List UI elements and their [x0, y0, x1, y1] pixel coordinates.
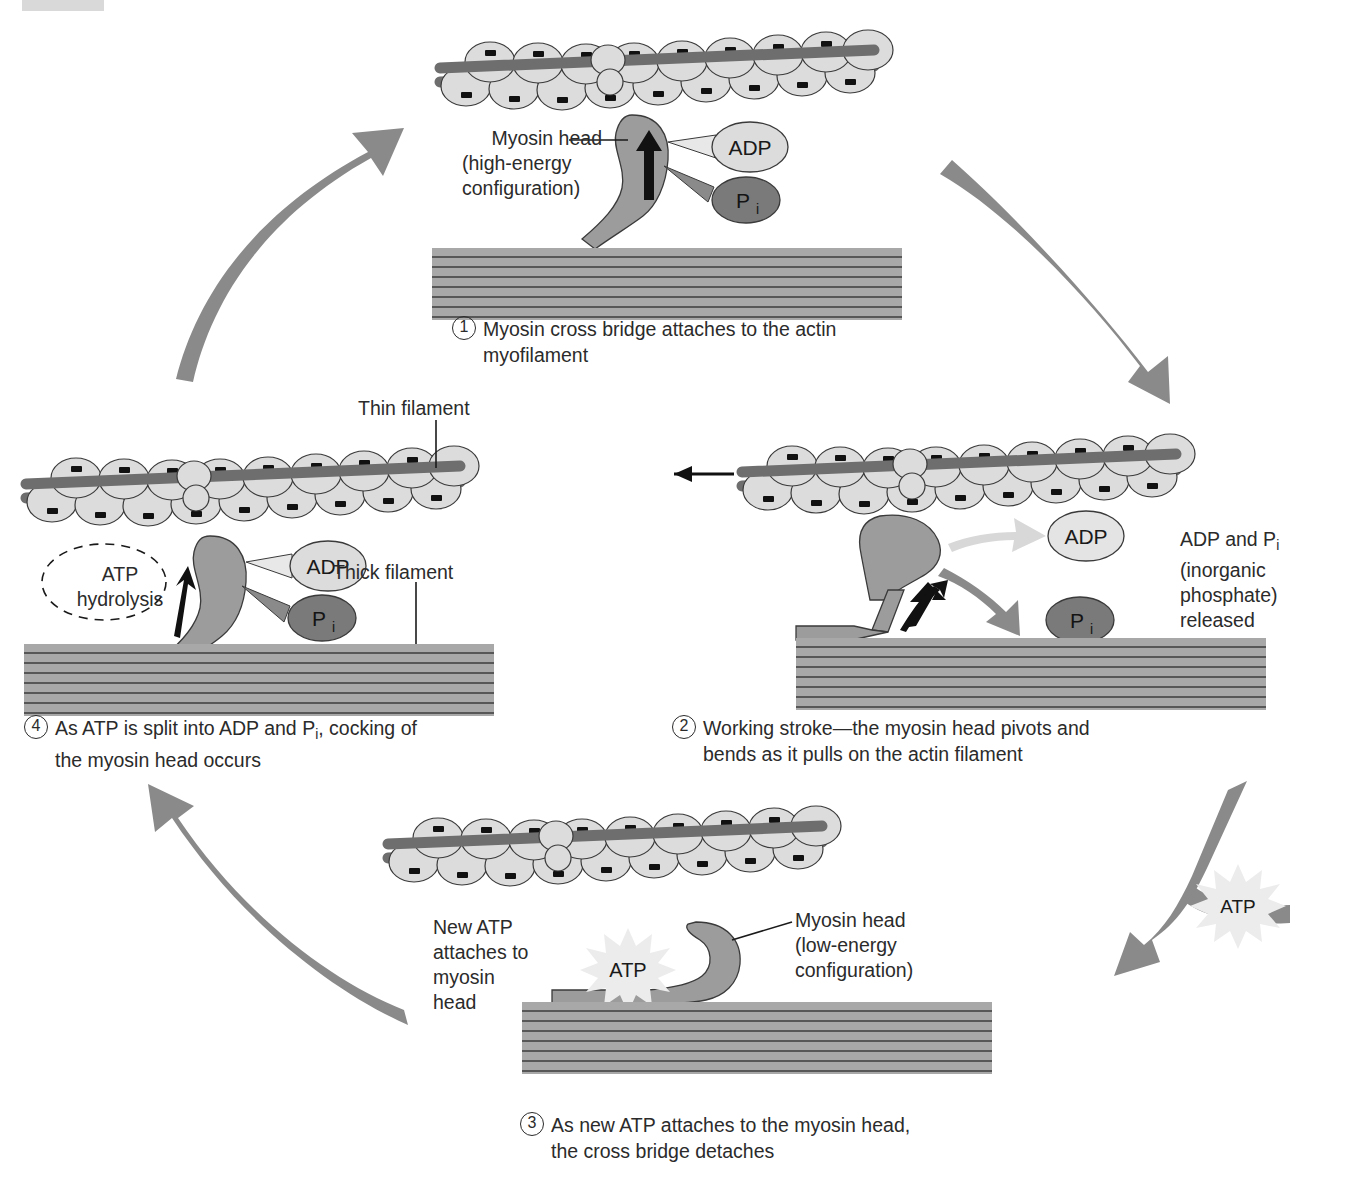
step4-atp-hydrolysis-label-l1: ATP	[60, 562, 180, 587]
step-4-caption-line1: As ATP is split into ADP and Pi, cocking…	[55, 717, 417, 739]
step-4-number: 4	[24, 715, 48, 739]
step-2-panel: ADP P i	[648, 440, 1168, 700]
step1-pi-label-sub: i	[756, 201, 759, 217]
step1-pi-label-p: P	[736, 189, 750, 212]
step1-myosin-head-label: Myosin head (high-energy configuration)	[462, 126, 602, 201]
step1-thick-filament	[432, 248, 902, 320]
step2-pi: P i	[1046, 597, 1114, 643]
step2-adp-label: ADP	[1064, 525, 1107, 548]
cycle-arrow-4-to-1	[176, 128, 404, 382]
step-3-caption: 3 As new ATP attaches to the myosin head…	[520, 1112, 990, 1164]
step-1-caption-line1: Myosin cross bridge attaches to the acti…	[483, 318, 836, 340]
step1-myosin-head-label-l2: (high-energy	[462, 151, 602, 176]
scan-artifact	[22, 0, 104, 11]
step1-adp-label: ADP	[728, 136, 771, 159]
atp-input-burst: ATP	[1190, 862, 1290, 952]
step-2-caption-line2: bends as it pulls on the actin filament	[703, 743, 1023, 765]
step2-pi-release-arrow	[938, 568, 1020, 636]
step3-myosin-head-label-l2: (low-energy	[795, 933, 975, 958]
step4-pi: P i	[242, 586, 356, 641]
atp-input-burst-label: ATP	[1220, 896, 1256, 917]
step2-pi-label-p: P	[1070, 609, 1084, 632]
step4-pi-label-sub: i	[332, 619, 335, 635]
step4-actin-filament	[26, 446, 479, 526]
step-2-caption: 2 Working stroke—the myosin head pivots …	[672, 715, 1172, 767]
step-4-caption-line2: the myosin head occurs	[55, 749, 261, 771]
step4-atp-hydrolysis-label-l2: hydrolysis	[60, 587, 180, 612]
step2-thick-filament	[796, 638, 1266, 710]
step3-atp-burst-label: ATP	[609, 959, 646, 981]
step4-thin-filament-label: Thin filament	[358, 396, 470, 421]
step2-release-label-l2: (inorganic	[1180, 558, 1360, 583]
step4-thick-filament	[24, 644, 494, 716]
step3-myosin-head-leader	[732, 922, 792, 940]
step1-myosin-head-label-l1: Myosin head	[462, 126, 602, 151]
step2-actin-filament	[742, 434, 1195, 514]
step3-new-atp-label-l2: attaches to	[433, 940, 563, 965]
step2-release-label-l1: ADP and Pi	[1180, 527, 1360, 558]
step3-new-atp-label-l4: head	[433, 990, 563, 1015]
step4-pi-label-p: P	[312, 607, 326, 630]
step3-myosin-head-label: Myosin head (low-energy configuration)	[795, 908, 975, 983]
cycle-arrow-3-to-4	[148, 784, 408, 1025]
step2-release-label-l4: released	[1180, 608, 1360, 633]
step2-release-label-l3: phosphate)	[1180, 583, 1360, 608]
step2-slide-arrow	[674, 466, 734, 482]
step2-adp: ADP	[1048, 511, 1124, 561]
step2-release-label: ADP and Pi (inorganic phosphate) release…	[1180, 527, 1360, 633]
step3-myosin-head-label-l1: Myosin head	[795, 908, 975, 933]
step3-new-atp-label: New ATP attaches to myosin head	[433, 915, 563, 1015]
step3-myosin-head-label-l3: configuration)	[795, 958, 975, 983]
step4-atp-hydrolysis-label: ATP hydrolysis	[60, 562, 180, 612]
cycle-arrow-1-to-2	[940, 160, 1170, 404]
step1-adp: ADP	[668, 122, 788, 172]
step2-pi-label-sub: i	[1090, 621, 1093, 637]
step-3-caption-line1: As new ATP attaches to the myosin head,	[551, 1114, 910, 1136]
step-3-number: 3	[520, 1112, 544, 1136]
step-1-caption-line2: myofilament	[483, 344, 588, 366]
step-1-number: 1	[452, 316, 476, 340]
step3-new-atp-label-l1: New ATP	[433, 915, 563, 940]
step1-actin-filament	[440, 30, 893, 110]
step1-pi: P i	[664, 166, 780, 223]
step-4-caption: 4 As ATP is split into ADP and Pi, cocki…	[24, 715, 484, 773]
step-2-number: 2	[672, 715, 696, 739]
step3-actin-filament	[388, 806, 841, 886]
step2-myosin-head	[796, 515, 948, 640]
step-3-caption-line2: the cross bridge detaches	[551, 1140, 774, 1162]
step3-new-atp-label-l3: myosin	[433, 965, 563, 990]
step4-thick-filament-label: Thick filament	[333, 560, 453, 585]
step1-myosin-head-label-l3: configuration)	[462, 176, 602, 201]
step2-adp-release-arrow	[948, 518, 1046, 552]
step3-thick-filament	[522, 1002, 992, 1074]
step-1-caption: 1 Myosin cross bridge attaches to the ac…	[452, 316, 902, 368]
step-2-caption-line1: Working stroke—the myosin head pivots an…	[703, 717, 1090, 739]
